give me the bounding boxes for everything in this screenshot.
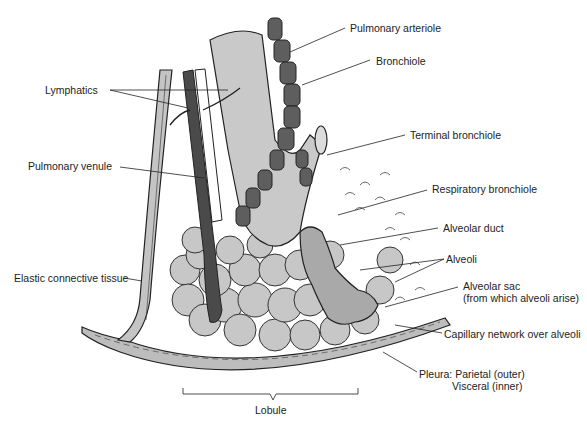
label-lymphatics: Lymphatics — [45, 84, 98, 96]
bronchiole-shape — [210, 31, 322, 246]
label-pulmonary-arteriole: Pulmonary arteriole — [350, 22, 441, 34]
lung-lobule-diagram: Pulmonary arteriole Bronchiole Lymphatic… — [0, 0, 587, 426]
elastic-connective-tissue-shape — [118, 70, 172, 342]
label-alveolar-duct: Alveolar duct — [443, 222, 504, 234]
label-respiratory-bronchiole: Respiratory bronchiole — [432, 183, 537, 195]
label-pulmonary-venule: Pulmonary venule — [28, 160, 112, 172]
label-capillary-network: Capillary network over alveoli — [444, 328, 581, 340]
label-bronchiole: Bronchiole — [376, 55, 426, 67]
terminal-bronchiole-opening — [315, 126, 327, 154]
label-lobule: Lobule — [255, 404, 287, 416]
label-pleura-visceral: Visceral (inner) — [452, 380, 522, 392]
label-alveolar-sac-note: (from which alveoli arise) — [463, 292, 579, 304]
label-elastic-connective-tissue: Elastic connective tissue — [14, 272, 128, 284]
label-pleura: Pleura: Parietal (outer) — [419, 368, 525, 380]
label-alveoli: Alveoli — [446, 253, 477, 265]
label-alveolar-sac: Alveolar sac — [463, 280, 520, 292]
label-terminal-bronchiole: Terminal bronchiole — [410, 129, 501, 141]
diagram-artwork — [0, 0, 587, 426]
